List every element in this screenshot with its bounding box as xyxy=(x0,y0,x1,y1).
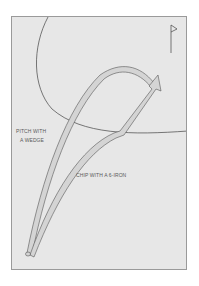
flag-icon xyxy=(171,25,177,53)
chip-label: CHIP WITH A 6-IRON xyxy=(76,172,126,178)
pitch-label-line2: A WEDGE xyxy=(20,137,44,143)
green-edge xyxy=(36,17,187,133)
diagram-frame: PITCH WITH A WEDGE CHIP WITH A 6-IRON xyxy=(11,16,187,270)
pitch-label-line1: PITCH WITH xyxy=(16,128,46,134)
golf-shot-diagram xyxy=(12,17,187,270)
ball-origin xyxy=(26,252,31,256)
